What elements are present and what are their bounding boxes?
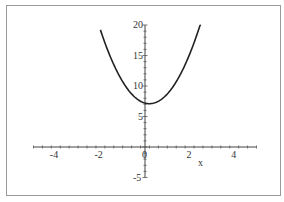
parabola-line [100,25,200,104]
y-tick-label: -5 [133,172,141,183]
x-axis-label: x [198,157,203,168]
y-tick-label: 15 [133,50,143,61]
y-tick-label: 5 [138,111,143,122]
x-tick-label: 2 [187,149,192,160]
plot-canvas: -4-2024-55101520 x [0,0,284,202]
x-tick-label: 0 [142,149,147,160]
y-tick-label: 10 [133,80,143,91]
tick-labels: -4-2024-55101520 [50,19,236,183]
x-tick-label: -4 [50,149,58,160]
x-tick-label: 4 [231,149,236,160]
curve-series [100,25,200,104]
x-tick-label: -2 [94,149,102,160]
y-tick-label: 20 [133,19,143,30]
